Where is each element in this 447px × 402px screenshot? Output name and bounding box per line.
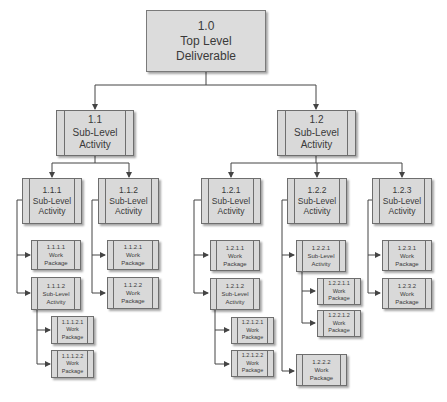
node-sidebar <box>52 351 58 377</box>
node-1-2-3-2: 1.2.3.2 Work Package <box>382 278 432 309</box>
node-id: 1.1.1.2.2 <box>62 353 83 361</box>
node-sidebar <box>297 355 303 385</box>
node-id: 1.2.2 <box>308 185 327 196</box>
node-sidebar <box>278 111 286 155</box>
node-label: Activity <box>79 139 111 152</box>
node-id: 1.1.1.2 <box>47 282 65 290</box>
node-sidebar <box>152 278 158 308</box>
node-id: 1.2.3.1 <box>398 244 416 252</box>
node-sidebar <box>99 179 106 223</box>
node-label: Work <box>315 366 329 374</box>
node-1-2-1-2: 1.2.1.2 Sub-Level Activity <box>210 278 260 310</box>
node-sidebar <box>87 317 93 343</box>
node-id: 1.2.3 <box>393 185 412 196</box>
node-label: Package <box>62 368 83 376</box>
node-id: 1.2.2.1.1 <box>328 280 349 288</box>
node-sidebar <box>211 241 217 270</box>
node-sidebar <box>52 317 58 343</box>
node-1-2-2-1: 1.2.2.1 Sub-Level Activity <box>296 240 346 272</box>
node-1-1: 1.1 Sub-Level Activity <box>56 110 134 156</box>
node-sidebar <box>340 355 346 385</box>
node-label: Sub-Level <box>221 290 248 298</box>
node-label: Work <box>246 360 259 368</box>
node-sidebar <box>232 351 238 376</box>
node-label: Sub-Level <box>383 196 421 207</box>
node-id: 1.2.1.2.1 <box>242 319 263 327</box>
node-sidebar <box>318 279 324 304</box>
node-label: Sub-Level <box>33 196 71 207</box>
node-label: Sub-Level <box>307 252 334 260</box>
node-1-1-2-2: 1.1.2.2 Work Package <box>107 277 159 309</box>
node-sidebar <box>23 179 30 223</box>
node-1-2-2-1-1: 1.2.2.1.1 Work Package <box>317 278 361 305</box>
node-id: 1.2 <box>310 114 324 127</box>
node-label: Package <box>121 259 144 267</box>
node-1-2-3-1: 1.2.3.1 Work Package <box>382 240 432 271</box>
node-sidebar <box>288 179 295 223</box>
node-label: Work <box>66 360 79 368</box>
node-sidebar <box>425 241 431 270</box>
node-sidebar <box>383 279 389 308</box>
node-id: 1.0 <box>198 19 215 34</box>
node-label: Package <box>44 259 67 267</box>
node-label: Package <box>395 260 418 268</box>
node-1-2-2: 1.2.2 Sub-Level Activity <box>287 178 347 224</box>
node-sidebar <box>151 179 158 223</box>
node-label: Work <box>333 320 346 328</box>
node-sidebar <box>318 311 324 336</box>
node-1-0: 1.0 Top Level Deliverable <box>146 10 266 72</box>
node-sidebar <box>232 318 238 343</box>
node-sidebar <box>125 111 133 155</box>
node-sidebar <box>339 241 345 271</box>
node-label: Work <box>333 288 346 296</box>
node-1-1-1-2-1: 1.1.1.2.1 Work Package <box>51 316 94 344</box>
node-label: Package <box>223 260 246 268</box>
node-id: 1.1.2.1 <box>124 243 142 251</box>
node-label: Activity <box>115 206 142 217</box>
node-id: 1.1.1.2.1 <box>62 319 83 327</box>
node-label: Activity <box>304 206 331 217</box>
node-label: Activity <box>389 206 416 217</box>
node-id: 1.1.1.1 <box>47 243 65 251</box>
node-id: 1.2.1.2.2 <box>242 352 263 360</box>
node-sidebar <box>383 241 389 270</box>
node-sidebar <box>74 278 80 309</box>
node-label: Package <box>310 374 333 382</box>
wbs-diagram: 1.0 Top Level Deliverable 1.1 Sub-Level … <box>0 0 447 402</box>
node-label: Package <box>242 367 263 375</box>
node-label: Sub-Level <box>298 196 336 207</box>
node-1-2-1-2-2: 1.2.1.2.2 Work Package <box>231 350 274 377</box>
node-id: 1.1.1 <box>43 185 62 196</box>
node-1-2-3: 1.2.3 Sub-Level Activity <box>372 178 432 224</box>
node-label: Activity <box>46 298 65 306</box>
node-label: Sub-Level <box>212 196 250 207</box>
node-1-2-2-1-2: 1.2.2.1.2 Work Package <box>317 310 361 337</box>
node-sidebar <box>253 279 259 309</box>
node-sidebar <box>74 179 81 223</box>
node-id: 1.2.2.1.2 <box>328 312 349 320</box>
node-id: 1.1 <box>88 114 102 127</box>
node-label: Package <box>328 295 349 303</box>
node-sidebar <box>57 111 65 155</box>
node-sidebar <box>108 241 114 269</box>
node-label: Package <box>62 334 83 342</box>
node-id: 1.2.3.2 <box>398 282 416 290</box>
node-sidebar <box>202 179 209 223</box>
node-label: Work <box>246 327 259 335</box>
node-sidebar <box>354 311 360 336</box>
node-label: Activity <box>39 206 66 217</box>
node-sidebar <box>347 111 355 155</box>
node-1-1-2-1: 1.1.2.1 Work Package <box>107 240 159 270</box>
node-1-2: 1.2 Sub-Level Activity <box>277 110 356 156</box>
node-label: Activity <box>311 260 330 268</box>
node-label: Work <box>66 326 79 334</box>
node-label: Work <box>126 251 140 259</box>
node-label: Work <box>49 251 63 259</box>
node-id: 1.2.2.2 <box>312 358 330 366</box>
node-sidebar <box>424 179 431 223</box>
node-id: 1.1.2.2 <box>124 281 142 289</box>
node-label: Package <box>395 298 418 306</box>
node-sidebar <box>267 351 273 376</box>
node-sidebar <box>152 241 158 269</box>
node-label: Package <box>121 297 144 305</box>
